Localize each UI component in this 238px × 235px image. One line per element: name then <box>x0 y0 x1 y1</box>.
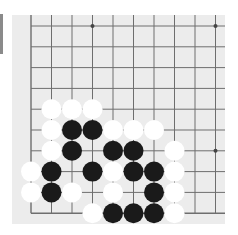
star-point <box>214 149 218 153</box>
black-stone[interactable] <box>144 203 164 223</box>
white-stone[interactable] <box>21 182 41 202</box>
white-stone[interactable] <box>42 141 62 161</box>
side-bar <box>0 14 3 54</box>
black-stone[interactable] <box>42 162 62 182</box>
black-stone[interactable] <box>62 141 82 161</box>
white-stone[interactable] <box>103 120 123 140</box>
white-stone[interactable] <box>42 120 62 140</box>
white-stone[interactable] <box>103 162 123 182</box>
go-board[interactable] <box>12 15 225 224</box>
black-stone[interactable] <box>103 203 123 223</box>
white-stone[interactable] <box>165 203 185 223</box>
white-stone[interactable] <box>83 203 103 223</box>
white-stone[interactable] <box>165 141 185 161</box>
black-stone[interactable] <box>124 203 144 223</box>
black-stone[interactable] <box>124 141 144 161</box>
white-stone[interactable] <box>62 99 82 119</box>
star-point <box>214 24 218 28</box>
black-stone[interactable] <box>124 162 144 182</box>
white-stone[interactable] <box>124 120 144 140</box>
black-stone[interactable] <box>144 162 164 182</box>
black-stone[interactable] <box>144 182 164 202</box>
white-stone[interactable] <box>103 182 123 202</box>
white-stone[interactable] <box>144 120 164 140</box>
white-stone[interactable] <box>62 182 82 202</box>
star-point <box>91 24 95 28</box>
board-grid[interactable] <box>12 15 225 224</box>
black-stone[interactable] <box>83 162 103 182</box>
white-stone[interactable] <box>165 182 185 202</box>
black-stone[interactable] <box>83 120 103 140</box>
white-stone[interactable] <box>165 162 185 182</box>
black-stone[interactable] <box>42 182 62 202</box>
white-stone[interactable] <box>42 99 62 119</box>
black-stone[interactable] <box>62 120 82 140</box>
black-stone[interactable] <box>103 141 123 161</box>
white-stone[interactable] <box>21 162 41 182</box>
white-stone[interactable] <box>83 99 103 119</box>
